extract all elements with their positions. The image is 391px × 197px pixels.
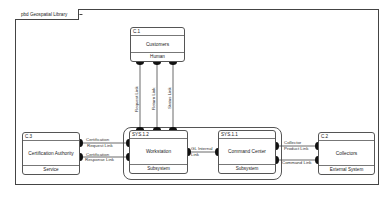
block-stereotype: Human bbox=[131, 52, 184, 61]
block-name: Collectors bbox=[319, 140, 374, 166]
gl-internal-label-line2: Link bbox=[191, 152, 199, 157]
port-icon bbox=[169, 62, 177, 65]
request-link-label: Request Link bbox=[134, 86, 139, 112]
collector-product-label-line2: Product Link bbox=[284, 146, 308, 151]
port-icon bbox=[276, 156, 279, 164]
block-workstation[interactable]: SYS.1.2 Workstation Subsystem bbox=[129, 130, 188, 174]
block-customers[interactable]: C.1 Customers Human bbox=[130, 27, 185, 62]
cert-response-label-line2: Response Link bbox=[85, 157, 114, 162]
command-link-label: Command Link bbox=[282, 160, 312, 165]
cert-request-label-line1: Certification bbox=[86, 137, 109, 142]
cert-request-label-line2: Request Link bbox=[87, 143, 113, 148]
block-certification-authority[interactable]: C.3 Certification Authority Service bbox=[22, 132, 80, 175]
port-icon bbox=[80, 153, 83, 161]
block-name: Command Center bbox=[219, 138, 275, 165]
block-name: Workstation bbox=[130, 138, 187, 165]
port-icon bbox=[276, 142, 279, 150]
port-icon bbox=[80, 139, 83, 147]
return-link-label: Return Link bbox=[151, 88, 156, 110]
block-collectors[interactable]: C.2 Collectors External System bbox=[318, 132, 375, 175]
block-stereotype: Subsystem bbox=[130, 164, 187, 173]
block-stereotype: External System bbox=[319, 165, 374, 174]
status-link-label: Status Link bbox=[167, 87, 172, 109]
block-stereotype: Subsystem bbox=[219, 164, 275, 173]
block-name: Customers bbox=[131, 35, 184, 53]
collector-product-label-line1: Collector bbox=[284, 140, 301, 145]
block-name: Certification Authority bbox=[23, 140, 79, 166]
port-icon bbox=[136, 62, 144, 65]
gl-internal-label-line1: GL Internal bbox=[191, 146, 213, 151]
block-command-center[interactable]: SYS.1.1 Command Center Subsystem bbox=[218, 130, 276, 174]
port-icon bbox=[153, 62, 161, 65]
block-stereotype: Service bbox=[23, 165, 79, 174]
